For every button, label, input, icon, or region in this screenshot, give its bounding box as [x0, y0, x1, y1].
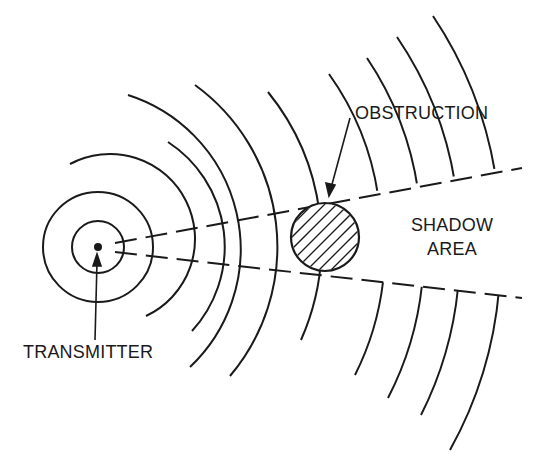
transmitter-label: TRANSMITTER — [23, 342, 153, 362]
wave-arc-8-bottom — [355, 282, 383, 375]
wave-arc-9-bottom — [388, 285, 422, 398]
wave-arc-11-top — [433, 16, 495, 172]
obstruction-arrow — [331, 118, 350, 188]
shadow-area-label: SHADOW AREA — [402, 215, 502, 259]
wave-arc-6 — [195, 85, 277, 376]
obstruction-label: OBSTRUCTION — [355, 103, 488, 123]
shadow-label-line1: SHADOW — [402, 215, 502, 235]
wave-arc-8-top — [329, 74, 378, 195]
obstruction-circle — [285, 192, 365, 277]
wave-arc-3 — [70, 154, 195, 316]
wave-arc-4 — [168, 142, 225, 331]
wave-arc-11-bottom — [450, 290, 499, 450]
wave-arc-10-bottom — [421, 288, 458, 415]
transmitter-dot — [94, 243, 102, 251]
wave-arc-9-top — [367, 58, 418, 190]
shadow-label-line2: AREA — [402, 239, 502, 259]
